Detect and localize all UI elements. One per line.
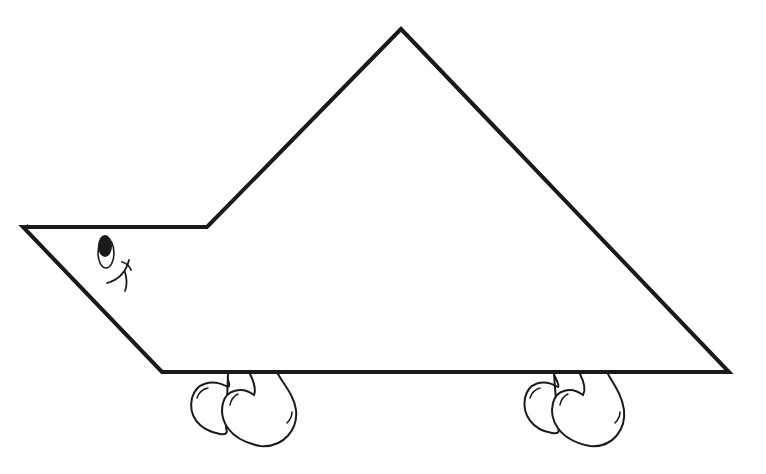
front-wheel-icon (552, 374, 624, 446)
rear-wheel-pair (524, 374, 624, 446)
mouse-body (23, 29, 729, 372)
mouse-drawing (0, 0, 766, 474)
front-wheel-icon (222, 374, 296, 446)
front-wheel-pair (191, 374, 296, 446)
